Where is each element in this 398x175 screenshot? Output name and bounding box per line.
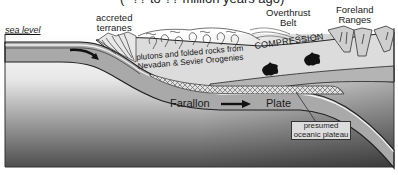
accreted-terranes-line2: terranes — [96, 23, 132, 33]
subduction-cross-section — [0, 0, 398, 175]
accreted-terranes-label: accreted terranes — [96, 13, 132, 33]
foreland-ranges-label: Foreland Ranges — [336, 5, 374, 25]
overthrust-line2: Belt — [266, 18, 310, 28]
presumed-oceanic-plateau-label: presumed oceanic plateau — [291, 121, 351, 140]
sea-level-label: sea level — [5, 26, 41, 35]
plate-label: Plate — [266, 98, 291, 110]
presumed-line2: oceanic plateau — [292, 131, 350, 140]
foreland-line2: Ranges — [336, 15, 374, 25]
farallon-label: Farallon — [170, 98, 210, 110]
diagram-title-partial: (~?? to ?? million years ago) — [120, 0, 284, 6]
overthrust-belt-label: Overthrust Belt — [266, 8, 310, 28]
